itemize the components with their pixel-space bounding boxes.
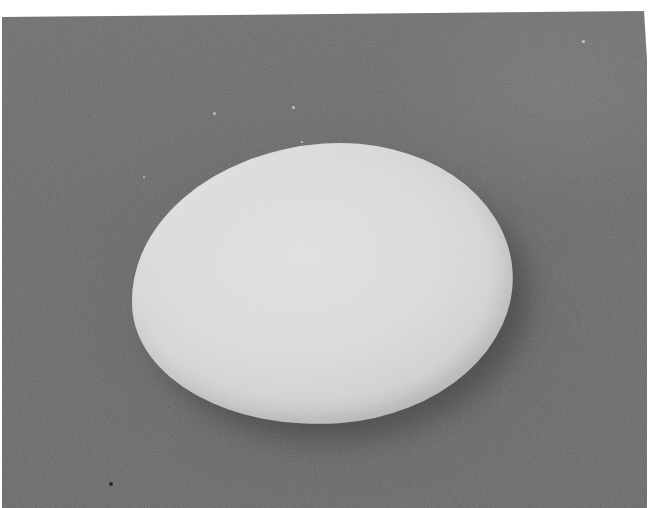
dust-speck <box>292 106 295 109</box>
dust-speck <box>582 40 585 43</box>
dust-speck <box>213 112 216 115</box>
egg <box>122 131 523 437</box>
dust-speck <box>143 176 145 178</box>
dust-speck <box>301 141 303 143</box>
photo-frame <box>0 0 649 508</box>
dust-speck <box>109 482 113 486</box>
egg-grain-texture <box>122 131 523 437</box>
